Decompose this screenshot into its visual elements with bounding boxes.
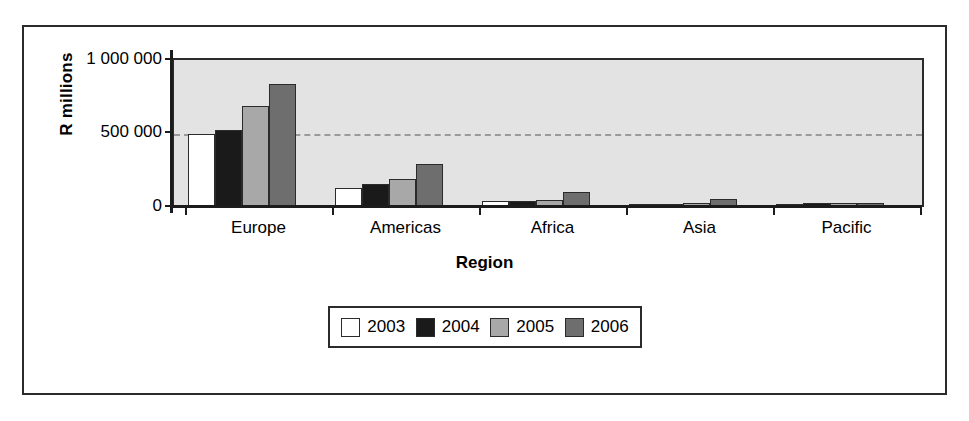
bar-group-pacific <box>776 60 884 207</box>
legend-item-2006[interactable]: 2006 <box>565 317 629 337</box>
bar-americas-2005[interactable] <box>389 179 416 207</box>
legend-swatch-2003 <box>341 318 360 337</box>
legend-label-2005: 2005 <box>516 317 554 337</box>
bar-group-asia <box>629 60 737 207</box>
y-tick-label-1000000: 1 000 000 <box>86 50 162 67</box>
bar-europe-2004[interactable] <box>215 130 242 207</box>
bar-group-africa <box>482 60 590 207</box>
legend-swatch-2006 <box>565 318 584 337</box>
x-tick-mark-2 <box>479 206 481 215</box>
x-tick-mark-1 <box>332 206 334 215</box>
legend-swatch-2004 <box>416 318 435 337</box>
bar-americas-2006[interactable] <box>416 164 443 207</box>
bar-europe-2005[interactable] <box>242 106 269 207</box>
plot-inner <box>174 60 922 207</box>
legend: 2003 2004 2005 2006 <box>328 306 642 348</box>
y-axis-line <box>170 50 173 213</box>
legend-label-2004: 2004 <box>442 317 480 337</box>
y-axis-ticks: 1 000 000 500 000 0 <box>40 0 162 421</box>
legend-label-2006: 2006 <box>591 317 629 337</box>
x-category-label-asia: Asia <box>626 218 773 238</box>
bar-group-europe <box>188 60 296 207</box>
bar-group-americas <box>335 60 443 207</box>
x-category-label-europe: Europe <box>185 218 332 238</box>
x-category-label-pacific: Pacific <box>773 218 920 238</box>
plot-area <box>172 58 924 207</box>
x-tick-mark-5 <box>920 206 922 215</box>
legend-item-2003[interactable]: 2003 <box>341 317 405 337</box>
legend-item-2004[interactable]: 2004 <box>416 317 480 337</box>
x-category-label-americas: Americas <box>332 218 479 238</box>
y-tick-label-500000: 500 000 <box>101 123 162 140</box>
x-axis-line <box>170 205 922 208</box>
bar-americas-2004[interactable] <box>362 184 389 207</box>
legend-swatch-2005 <box>490 318 509 337</box>
x-category-label-africa: Africa <box>479 218 626 238</box>
chart-figure: R millions 1 000 000 500 000 0 Europe Am… <box>0 0 969 421</box>
legend-label-2003: 2003 <box>367 317 405 337</box>
y-tick-label-0: 0 <box>153 197 162 214</box>
legend-item-2005[interactable]: 2005 <box>490 317 554 337</box>
bar-europe-2003[interactable] <box>188 134 215 208</box>
x-tick-mark-4 <box>773 206 775 215</box>
bar-europe-2006[interactable] <box>269 84 296 207</box>
x-tick-mark-3 <box>626 206 628 215</box>
x-axis-title: Region <box>0 253 969 273</box>
x-tick-mark-0 <box>185 206 187 215</box>
